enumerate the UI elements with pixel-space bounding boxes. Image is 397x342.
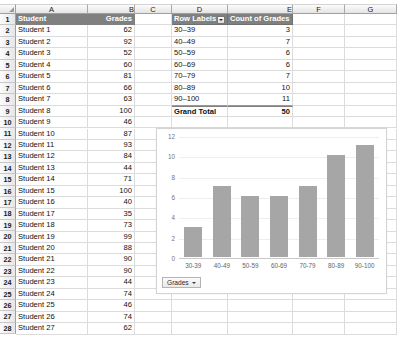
cell-f1[interactable] bbox=[293, 14, 345, 25]
cell-a17[interactable]: Student 16 bbox=[16, 197, 88, 208]
cell-f6[interactable] bbox=[293, 71, 345, 82]
row-header-15[interactable]: 15 bbox=[0, 174, 16, 185]
cell-b2[interactable]: 62 bbox=[88, 25, 135, 36]
row-header-2[interactable]: 2 bbox=[0, 25, 16, 36]
cell-b23[interactable]: 90 bbox=[88, 266, 135, 277]
pivot-row-label-4[interactable]: 60–69 bbox=[172, 60, 228, 71]
row-header-12[interactable]: 12 bbox=[0, 140, 16, 151]
cell-b10[interactable]: 46 bbox=[88, 117, 135, 128]
pivot-row-labels-header[interactable]: Row Labels bbox=[172, 14, 228, 25]
cell-e26[interactable] bbox=[228, 300, 293, 311]
pivot-row-label-7[interactable]: 90–100 bbox=[172, 94, 228, 105]
row-header-24[interactable]: 24 bbox=[0, 277, 16, 288]
row-header-5[interactable]: 5 bbox=[0, 60, 16, 71]
cell-g4[interactable] bbox=[345, 48, 397, 59]
cell-b9[interactable]: 100 bbox=[88, 106, 135, 117]
cell-g6[interactable] bbox=[345, 71, 397, 82]
pivot-row-count-3[interactable]: 6 bbox=[228, 48, 293, 59]
chart-bar-70-79[interactable] bbox=[299, 186, 317, 257]
row-header-23[interactable]: 23 bbox=[0, 266, 16, 277]
pivot-row-label-3[interactable]: 50–59 bbox=[172, 48, 228, 59]
row-header-19[interactable]: 19 bbox=[0, 220, 16, 231]
cell-a23[interactable]: Student 22 bbox=[16, 266, 88, 277]
cell-a14[interactable]: Student 13 bbox=[16, 163, 88, 174]
pivot-row-count-5[interactable]: 7 bbox=[228, 71, 293, 82]
cell-f8[interactable] bbox=[293, 94, 345, 105]
cell-c3[interactable] bbox=[135, 37, 172, 48]
column-header-c[interactable]: C bbox=[135, 4, 172, 14]
cell-a10[interactable]: Student 9 bbox=[16, 117, 88, 128]
cell-a6[interactable]: Student 5 bbox=[16, 71, 88, 82]
cell-a25[interactable]: Student 24 bbox=[16, 289, 88, 300]
pivot-row-count-6[interactable]: 10 bbox=[228, 83, 293, 94]
cell-c27[interactable] bbox=[135, 312, 172, 323]
row-header-21[interactable]: 21 bbox=[0, 243, 16, 254]
row-header-1[interactable]: 1 bbox=[0, 14, 16, 25]
chart-bar-60-69[interactable] bbox=[270, 196, 288, 257]
pivot-value-header[interactable]: Count of Grades bbox=[228, 14, 293, 25]
pivot-row-label-1[interactable]: 30–39 bbox=[172, 25, 228, 36]
row-header-26[interactable]: 26 bbox=[0, 300, 16, 311]
column-header-e[interactable]: E bbox=[228, 4, 293, 14]
row-header-3[interactable]: 3 bbox=[0, 37, 16, 48]
chart-field-button-grades[interactable]: Grades bbox=[162, 277, 201, 288]
pivot-row-count-2[interactable]: 7 bbox=[228, 37, 293, 48]
cell-d10[interactable] bbox=[172, 117, 228, 128]
cell-a8[interactable]: Student 7 bbox=[16, 94, 88, 105]
cell-b4[interactable]: 52 bbox=[88, 48, 135, 59]
cell-b22[interactable]: 90 bbox=[88, 254, 135, 265]
row-header-11[interactable]: 11 bbox=[0, 128, 16, 139]
cell-a9[interactable]: Student 8 bbox=[16, 106, 88, 117]
cell-c1[interactable] bbox=[135, 14, 172, 25]
cell-c10[interactable] bbox=[135, 117, 172, 128]
row-header-7[interactable]: 7 bbox=[0, 83, 16, 94]
cell-a1[interactable]: Student bbox=[16, 14, 88, 25]
pivot-row-label-2[interactable]: 40–49 bbox=[172, 37, 228, 48]
cell-c26[interactable] bbox=[135, 300, 172, 311]
cell-g10[interactable] bbox=[345, 117, 397, 128]
column-header-a[interactable]: A bbox=[16, 4, 88, 14]
cell-a24[interactable]: Student 23 bbox=[16, 277, 88, 288]
cell-d26[interactable] bbox=[172, 300, 228, 311]
chart-bar-30-39[interactable] bbox=[184, 227, 202, 258]
cell-g27[interactable] bbox=[345, 312, 397, 323]
cell-c6[interactable] bbox=[135, 71, 172, 82]
cell-b21[interactable]: 88 bbox=[88, 243, 135, 254]
cell-a26[interactable]: Student 25 bbox=[16, 300, 88, 311]
cell-b18[interactable]: 35 bbox=[88, 209, 135, 220]
cell-a5[interactable]: Student 4 bbox=[16, 60, 88, 71]
cell-a13[interactable]: Student 12 bbox=[16, 151, 88, 162]
column-header-g[interactable]: G bbox=[345, 4, 397, 14]
cell-e10[interactable] bbox=[228, 117, 293, 128]
cell-b20[interactable]: 99 bbox=[88, 232, 135, 243]
pivot-grand-total-label[interactable]: Grand Total bbox=[172, 106, 228, 117]
cell-b19[interactable]: 73 bbox=[88, 220, 135, 231]
chart-bar-40-49[interactable] bbox=[213, 186, 231, 257]
cell-b11[interactable]: 87 bbox=[88, 129, 135, 140]
column-header-b[interactable]: B bbox=[88, 4, 135, 14]
row-header-27[interactable]: 27 bbox=[0, 311, 16, 322]
cell-f4[interactable] bbox=[293, 48, 345, 59]
cell-b5[interactable]: 60 bbox=[88, 60, 135, 71]
cell-g1[interactable] bbox=[345, 14, 397, 25]
row-header-9[interactable]: 9 bbox=[0, 106, 16, 117]
cell-b6[interactable]: 81 bbox=[88, 71, 135, 82]
pivot-row-label-5[interactable]: 70–79 bbox=[172, 71, 228, 82]
cell-e27[interactable] bbox=[228, 312, 293, 323]
cell-a16[interactable]: Student 15 bbox=[16, 186, 88, 197]
cell-b15[interactable]: 71 bbox=[88, 174, 135, 185]
cell-g5[interactable] bbox=[345, 60, 397, 71]
cell-d27[interactable] bbox=[172, 312, 228, 323]
cell-a3[interactable]: Student 2 bbox=[16, 37, 88, 48]
row-header-10[interactable]: 10 bbox=[0, 117, 16, 128]
cell-a18[interactable]: Student 17 bbox=[16, 209, 88, 220]
row-header-20[interactable]: 20 bbox=[0, 231, 16, 242]
cell-a11[interactable]: Student 10 bbox=[16, 129, 88, 140]
cell-b16[interactable]: 100 bbox=[88, 186, 135, 197]
cell-c2[interactable] bbox=[135, 25, 172, 36]
cell-f5[interactable] bbox=[293, 60, 345, 71]
pivot-row-count-7[interactable]: 11 bbox=[228, 94, 293, 105]
cell-b3[interactable]: 92 bbox=[88, 37, 135, 48]
filter-dropdown-icon[interactable] bbox=[217, 16, 225, 24]
cell-f28[interactable] bbox=[293, 323, 345, 334]
